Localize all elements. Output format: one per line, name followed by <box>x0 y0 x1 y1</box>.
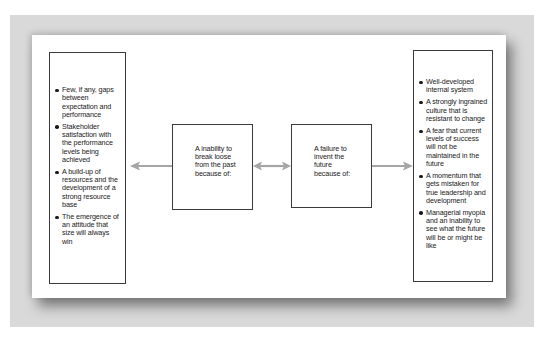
bullet-icon <box>419 175 423 179</box>
list-item: Managerial myopia and an inability to se… <box>419 209 488 250</box>
list-item: Few, if any, gaps between expectation an… <box>55 86 121 119</box>
bullet-icon <box>419 101 423 105</box>
list-item: A build-up of resources and the developm… <box>55 168 121 209</box>
double-arrow-icon <box>253 161 291 171</box>
arrow-right-icon <box>372 161 413 171</box>
bullet-icon <box>55 89 59 93</box>
list-item: A momentum that gets mistaken for true l… <box>419 172 488 205</box>
list-item: A fear that current levels of success wi… <box>419 127 488 168</box>
right-box-list: Well-developed internal system A strongl… <box>419 78 488 254</box>
middle-left-box: A inability to break loose from the past… <box>172 124 253 210</box>
middle-right-box: A failure to invent the future because o… <box>291 124 372 208</box>
list-item: The emergence of an attitude that size w… <box>55 213 121 246</box>
bullet-icon <box>419 130 423 134</box>
left-box: Few, if any, gaps between expectation an… <box>49 52 126 284</box>
bullet-icon <box>419 211 423 215</box>
list-item: A strongly ingrained culture that is res… <box>419 98 488 123</box>
arrow-left-icon <box>130 161 173 171</box>
bullet-icon <box>55 171 59 175</box>
left-box-list: Few, if any, gaps between expectation an… <box>55 86 121 250</box>
middle-left-box-text: A inability to break loose from the past… <box>195 145 243 178</box>
list-item: Stakeholder satisfaction with the perfor… <box>55 123 121 164</box>
middle-right-box-text: A failure to invent the future because o… <box>314 145 360 178</box>
bullet-icon <box>55 216 59 220</box>
bullet-icon <box>55 125 59 129</box>
bullet-icon <box>419 81 423 85</box>
list-item: Well-developed internal system <box>419 78 488 94</box>
right-box: Well-developed internal system A strongl… <box>413 50 493 282</box>
